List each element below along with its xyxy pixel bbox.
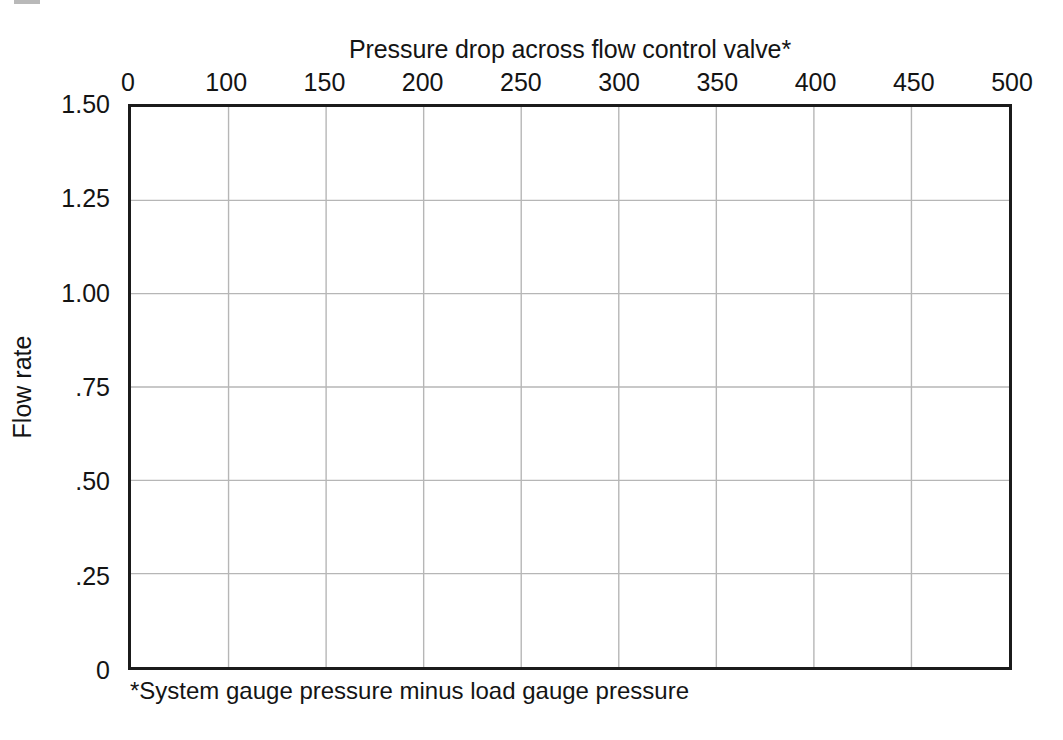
x-tick-label: 500 — [991, 66, 1033, 98]
x-tick-label: 100 — [205, 66, 247, 98]
x-tick-label: 200 — [402, 66, 444, 98]
x-tick-label: 450 — [893, 66, 935, 98]
y-tick-label: .25 — [75, 562, 110, 590]
y-tick-label: .75 — [75, 373, 110, 401]
y-tick-label: 0 — [96, 656, 110, 684]
y-tick-label: 1.25 — [61, 184, 110, 212]
chart-figure: Pressure drop across flow control valve*… — [0, 0, 1063, 740]
x-tick-label: 250 — [500, 66, 542, 98]
y-tick-label: .50 — [75, 467, 110, 495]
y-tick-label: 1.50 — [61, 90, 110, 118]
x-tick-label: 400 — [795, 66, 837, 98]
plot-area — [128, 104, 1012, 670]
grid-lines — [131, 107, 1009, 667]
x-tick-label: 300 — [598, 66, 640, 98]
x-tick-label: 350 — [696, 66, 738, 98]
x-tick-label: 150 — [304, 66, 346, 98]
y-tick-label: 1.00 — [61, 279, 110, 307]
y-axis-title: Flow rate — [0, 104, 44, 670]
chart-title: Pressure drop across flow control valve* — [128, 34, 1012, 64]
chart-footnote: *System gauge pressure minus load gauge … — [130, 676, 689, 706]
x-axis-tick-labels: 0100150200250300350400450500 — [128, 66, 1012, 98]
x-tick-label: 0 — [121, 66, 135, 98]
